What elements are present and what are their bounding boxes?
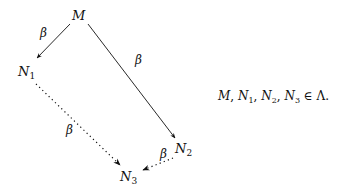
edge-m-to-n2 [88, 24, 175, 138]
edge-label-n1-n3: β [65, 123, 73, 137]
node-n2: N2 [174, 141, 192, 158]
edge-label-n2-n3: β [159, 147, 167, 161]
edge-n1-to-n3 [36, 84, 120, 165]
node-n1: N1 [17, 64, 35, 81]
edge-label-m-n2: β [134, 53, 142, 67]
node-m: M [71, 8, 86, 23]
membership-statement: M, N1, N2, N3 ∈ Λ. [218, 89, 329, 105]
edge-n2-to-n3 [143, 158, 173, 170]
node-n3: N3 [119, 169, 137, 186]
edge-label-m-n1: β [39, 26, 47, 40]
